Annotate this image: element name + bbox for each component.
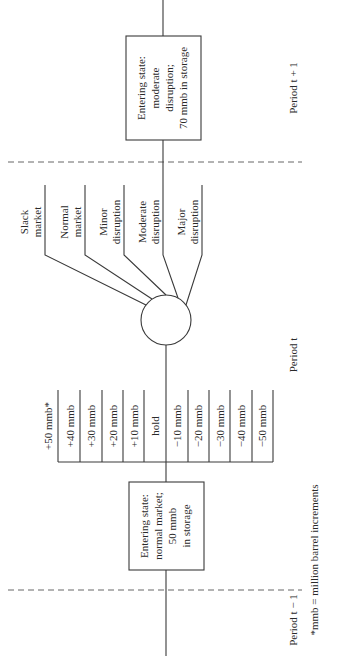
outcome-label: Slack market (18, 207, 43, 238)
svg-text:Minor: Minor (97, 208, 109, 236)
outcome-label: Normal market (58, 205, 83, 239)
decision-option: +50 mmb* (42, 402, 54, 450)
entering-state-current-text: Entering state: normal market; 50 mmb in… (138, 492, 192, 560)
decision-option: −50 mmb (256, 404, 268, 447)
svg-text:in storage: in storage (180, 504, 192, 547)
svg-text:market: market (31, 207, 43, 238)
outcome-label: Minor disruption (97, 199, 122, 244)
decision-option: +20 mmb (107, 404, 119, 447)
svg-text:disruption: disruption (188, 199, 200, 244)
decision-option: hold (149, 416, 161, 436)
decision-option: +40 mmb (64, 404, 76, 447)
svg-text:disruption: disruption (149, 199, 161, 244)
svg-text:Major: Major (175, 208, 187, 235)
svg-text:Entering state:: Entering state: (135, 56, 147, 120)
svg-text:market: market (71, 207, 83, 238)
decision-option: +30 mmb (85, 404, 97, 447)
decision-option: −10 mmb (171, 404, 183, 447)
svg-text:50 mmb: 50 mmb (166, 507, 178, 544)
decision-labels: +50 mmb* +40 mmb +30 mmb +20 mmb +10 mmb… (42, 402, 268, 450)
svg-text:normal market;: normal market; (152, 492, 164, 560)
svg-text:disruption: disruption (110, 199, 122, 244)
footnote: *mmb = million barrel increments (308, 484, 320, 635)
chance-node-circle (141, 295, 191, 345)
period-label-current: Period t (287, 338, 299, 373)
decision-option: +10 mmb (128, 404, 140, 447)
period-label-next: Period t + 1 (287, 62, 299, 114)
svg-text:Slack: Slack (18, 209, 30, 234)
decision-option: −40 mmb (235, 404, 247, 447)
chance-branches (45, 185, 202, 305)
decision-option: −20 mmb (192, 404, 204, 447)
svg-text:disruption;: disruption; (163, 64, 175, 112)
decision-option: −30 mmb (214, 404, 226, 447)
svg-text:Normal: Normal (58, 205, 70, 239)
decision-tree-diagram: Entering state: normal market; 50 mmb in… (0, 0, 338, 656)
entering-state-next-text: Entering state: moderate disruption; 70 … (135, 47, 189, 129)
svg-text:70 mmb in storage: 70 mmb in storage (177, 47, 189, 129)
outcome-label: Moderate disruption (136, 199, 161, 244)
svg-text:moderate: moderate (149, 67, 161, 108)
period-label-prev: Period t − 1 (287, 594, 299, 646)
outcome-label: Major disruption (175, 199, 200, 244)
svg-text:Moderate: Moderate (136, 201, 148, 243)
svg-text:Entering state:: Entering state: (138, 494, 150, 558)
